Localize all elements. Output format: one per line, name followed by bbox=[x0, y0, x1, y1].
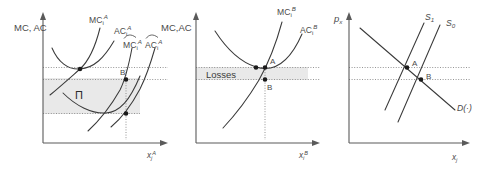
panel-c-xaxis-sub: j bbox=[455, 157, 458, 163]
label-ac-i-a-base: AC bbox=[114, 26, 126, 36]
label-ac-i-b-base: AC bbox=[300, 25, 312, 35]
svg-text:ACiB: ACiB bbox=[300, 23, 317, 36]
diagram-canvas: MC, AC MCiA ACiA MCiA ACiA Π B xjA bbox=[0, 0, 495, 171]
panel-b-yaxis-arrow bbox=[193, 12, 199, 20]
panel-c-yaxis-arrow bbox=[346, 12, 352, 20]
label-mc-i-a-sub: i bbox=[102, 19, 103, 26]
label-mc-i-b: MCiB bbox=[277, 5, 296, 18]
label-ac-hat-i-a-base: AC bbox=[145, 40, 157, 50]
label-ac-i-b: ACiB bbox=[300, 23, 317, 36]
point-b-middle bbox=[263, 77, 268, 82]
point-b-left bbox=[124, 77, 129, 82]
label-ac-hat-i-a-sup: A bbox=[157, 38, 162, 45]
svg-text:xjA: xjA bbox=[146, 150, 156, 162]
point-b-right bbox=[419, 77, 424, 82]
label-mc-i-a: MCiA bbox=[89, 13, 108, 26]
svg-text:px: px bbox=[333, 13, 343, 25]
curve-supply-0 bbox=[398, 25, 440, 122]
panel-c-yaxis-label: px bbox=[333, 13, 343, 25]
svg-text:xj: xj bbox=[451, 153, 458, 163]
label-supply-0-sub: 0 bbox=[452, 22, 456, 29]
point-label-a-right: A bbox=[412, 59, 418, 68]
label-supply-1-sub: 1 bbox=[431, 16, 434, 23]
point-label-a-middle: A bbox=[270, 57, 276, 66]
label-mc-i-b-sub: i bbox=[290, 11, 291, 18]
panel-a-xaxis-sup: A bbox=[151, 150, 156, 156]
losses-region-label: Losses bbox=[206, 69, 236, 80]
label-mc-i-b-sup: B bbox=[292, 5, 296, 12]
svg-text:MCiA: MCiA bbox=[89, 13, 108, 26]
diagram-figure: MC, AC MCiA ACiA MCiA ACiA Π B xjA bbox=[0, 0, 495, 171]
label-mc-i-a-base: MC bbox=[89, 15, 102, 25]
panel-c-xaxis-label: xj bbox=[451, 153, 458, 163]
panel-c-xaxis-arrow bbox=[462, 140, 470, 146]
panel-a-xaxis-sub: j bbox=[150, 155, 153, 161]
panel-a-yaxis-label: MC, AC bbox=[14, 22, 47, 33]
panel-b-xaxis-sub: i bbox=[303, 155, 305, 161]
label-supply-0: S0 bbox=[446, 18, 456, 29]
label-mc-hat-i-a-base: MC bbox=[123, 40, 136, 50]
label-ac-i-a-sup: A bbox=[126, 24, 131, 31]
panel-a-xaxis-arrow bbox=[160, 140, 168, 146]
svg-text:MCiB: MCiB bbox=[277, 5, 296, 18]
label-demand: D(·) bbox=[457, 103, 472, 113]
svg-text:xiB: xiB bbox=[298, 150, 308, 162]
panel-a-yaxis-arrow bbox=[40, 12, 46, 20]
point-a-middle bbox=[263, 65, 268, 70]
curve-supply-1 bbox=[385, 23, 424, 110]
panel-b-xaxis-sup: B bbox=[304, 150, 308, 156]
svg-text:ACiA: ACiA bbox=[145, 38, 162, 51]
curve-ac-i-a bbox=[52, 41, 114, 69]
label-mc-hat-i-a-sup: A bbox=[137, 38, 142, 45]
panel-b-yaxis-label: MC,AC bbox=[161, 22, 192, 33]
profit-region-shade bbox=[43, 78, 140, 114]
point-min-hat-left bbox=[124, 111, 129, 116]
panel-c-yaxis-sub: x bbox=[338, 18, 343, 25]
svg-text:S0: S0 bbox=[446, 18, 456, 29]
point-tangency-left bbox=[78, 67, 83, 72]
label-ac-i-b-sup: B bbox=[313, 23, 317, 30]
label-ac-hat-i-a: ACiA bbox=[145, 35, 162, 51]
svg-text:S1: S1 bbox=[425, 12, 434, 23]
panel-a-xaxis-label: xjA bbox=[146, 150, 156, 162]
hat-mark-ac-a bbox=[146, 35, 158, 39]
point-min-ac-middle bbox=[254, 65, 259, 70]
label-supply-1: S1 bbox=[425, 12, 434, 23]
curve-ac-i-b bbox=[215, 31, 302, 69]
label-mc-i-b-base: MC bbox=[277, 7, 290, 17]
point-label-b-left: B bbox=[120, 68, 125, 77]
point-label-b-middle: B bbox=[267, 83, 272, 92]
panel-b-xaxis-label: xiB bbox=[298, 150, 308, 162]
label-mc-i-a-sup: A bbox=[103, 13, 108, 20]
label-mc-hat-i-a: MCiA bbox=[123, 35, 142, 51]
panel-b-xaxis-arrow bbox=[312, 140, 320, 146]
point-label-b-right: B bbox=[426, 72, 431, 81]
point-a-right bbox=[405, 65, 410, 70]
profit-region-label: Π bbox=[75, 89, 83, 101]
label-ac-i-b-sub: i bbox=[312, 29, 313, 36]
svg-text:MCiA: MCiA bbox=[123, 38, 142, 51]
label-mc-hat-i-a-sub: i bbox=[136, 44, 137, 51]
label-ac-hat-i-a-sub: i bbox=[157, 44, 158, 51]
